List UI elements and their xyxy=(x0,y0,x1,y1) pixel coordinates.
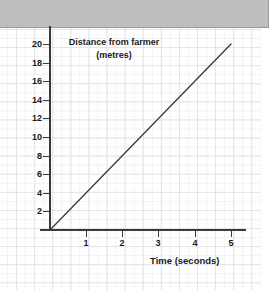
x-axis-line xyxy=(40,229,246,231)
chart-title: Distance from farmer (metres) xyxy=(53,36,175,62)
x-tick-label-4: 4 xyxy=(187,238,203,248)
y-tick-label-8: 8 xyxy=(20,151,42,161)
y-tick-label-16-wrap: 16 xyxy=(16,76,42,86)
y-tick-label-10-wrap: 10 xyxy=(16,132,42,142)
y-tick-18 xyxy=(43,63,49,64)
y-tick-label-12: 12 xyxy=(20,113,42,123)
chart-title-line2: (metres) xyxy=(96,50,132,60)
y-tick-20 xyxy=(43,44,49,45)
y-tick-label-6: 6 xyxy=(20,169,42,179)
y-tick-label-6-wrap: 6 xyxy=(16,169,42,179)
x-tick-4 xyxy=(195,231,196,237)
y-tick-label-12-wrap: 12 xyxy=(16,113,42,123)
y-tick-16 xyxy=(43,81,49,82)
y-tick-12 xyxy=(43,118,49,119)
x-tick-label-5: 5 xyxy=(223,238,239,248)
y-tick-label-14: 14 xyxy=(20,95,42,105)
y-tick-label-16: 16 xyxy=(20,76,42,86)
y-tick-label-18: 18 xyxy=(20,58,42,68)
x-tick-1 xyxy=(86,231,87,237)
x-tick-label-1: 1 xyxy=(78,238,94,248)
y-tick-label-4-wrap: 4 xyxy=(16,188,42,198)
y-tick-10 xyxy=(43,137,49,138)
x-tick-label-2: 2 xyxy=(114,238,130,248)
y-tick-label-18-wrap: 18 xyxy=(16,58,42,68)
y-axis-line xyxy=(49,26,51,231)
y-tick-label-10: 10 xyxy=(20,132,42,142)
y-tick-label-2: 2 xyxy=(20,206,42,216)
chart-plot-area: 20 18 16 14 12 10 8 6 4 xyxy=(0,0,278,308)
y-tick-2 xyxy=(43,211,49,212)
x-tick-5 xyxy=(231,231,232,237)
x-tick-label-3: 3 xyxy=(150,238,166,248)
y-tick-label-20-wrap: 20 xyxy=(16,39,42,49)
graph-page: 20 18 16 14 12 10 8 6 4 xyxy=(0,0,278,308)
y-tick-label-14-wrap: 14 xyxy=(16,95,42,105)
x-tick-3 xyxy=(158,231,159,237)
y-tick-label-8-wrap: 8 xyxy=(16,151,42,161)
x-axis-title: Time (seconds) xyxy=(150,255,220,266)
y-tick-6 xyxy=(43,174,49,175)
x-tick-2 xyxy=(122,231,123,237)
y-tick-label-20: 20 xyxy=(20,39,42,49)
y-tick-4 xyxy=(43,193,49,194)
y-tick-label-4: 4 xyxy=(20,188,42,198)
y-tick-14 xyxy=(43,100,49,101)
chart-title-line1: Distance from farmer xyxy=(69,37,160,47)
y-tick-8 xyxy=(43,156,49,157)
y-tick-label-2-wrap: 2 xyxy=(16,206,42,216)
